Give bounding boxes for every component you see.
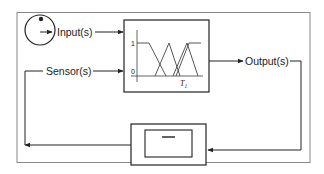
output-label: Output(s) — [245, 55, 289, 67]
output-to-plant-line — [208, 61, 301, 150]
plant-block — [131, 124, 206, 165]
fuzzy-control-diagram: Input(s) Sensor(s) 1 0 T1 Output(s) — [0, 0, 324, 174]
input-label: Input(s) — [57, 26, 93, 38]
y-tick-0: 0 — [131, 68, 135, 75]
fuzzy-controller-block: 1 0 T1 — [124, 20, 209, 92]
dial-knob-icon — [25, 15, 55, 45]
y-tick-1: 1 — [131, 40, 135, 47]
sensor-label: Sensor(s) — [46, 65, 92, 77]
